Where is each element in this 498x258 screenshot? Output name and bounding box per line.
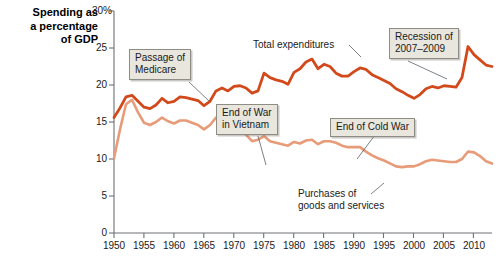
y-axis-label-20: 20: [81, 79, 107, 90]
annotation-recession-line-2: 2007–2009: [395, 43, 453, 55]
annotation-medicare-line-2: Medicare: [135, 64, 185, 76]
series-label-total-expenditures-text: Total expenditures: [253, 39, 334, 51]
series-label-purchases-line-2: goods and services: [298, 200, 384, 212]
series-label-purchases-line-1: Purchases of: [298, 188, 384, 200]
leader-line-vietnam: [258, 136, 266, 165]
annotation-recession-line-1: Recession of: [395, 31, 453, 43]
chart-figure: Spending as a percentage of GDP: [0, 0, 498, 258]
annotation-medicare-line-1: Passage of: [135, 52, 185, 64]
leader-line-recession: [408, 61, 447, 79]
annotation-coldwar-line-1: End of Cold War: [336, 121, 409, 133]
annotation-vietnam-line-2: in Vietnam: [222, 119, 272, 131]
y-axis-label-10: 10: [81, 153, 107, 164]
x-axis-label-2010: 2010: [454, 240, 494, 251]
series-line-purchases: [114, 100, 492, 167]
annotation-passage-of-medicare: Passage of Medicare: [129, 49, 191, 80]
annotation-recession-of-2007-2009: Recession of 2007–2009: [389, 28, 459, 59]
y-axis-label-30: 30%: [86, 5, 112, 16]
series-label-total-expenditures: Total expenditures: [253, 39, 334, 51]
series-label-purchases: Purchases of goods and services: [298, 188, 384, 212]
y-axis-label-25: 25: [81, 42, 107, 53]
y-axis-label-0: 0: [81, 227, 107, 238]
leader-line-total-expenditures: [349, 45, 361, 57]
annotation-end-of-war-in-vietnam: End of War in Vietnam: [216, 104, 278, 135]
y-axis-label-5: 5: [81, 190, 107, 201]
annotation-vietnam-line-1: End of War: [222, 107, 272, 119]
annotation-end-of-cold-war: End of Cold War: [330, 118, 415, 137]
y-axis-label-15: 15: [81, 116, 107, 127]
